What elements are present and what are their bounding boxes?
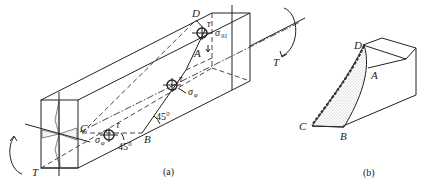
tau-label: τ xyxy=(179,73,183,84)
figure-a: τ σ 91 τ σ φ τ σ φ 45° 45° xyxy=(10,5,305,178)
point-b-label: B xyxy=(340,130,347,142)
point-a-label: A xyxy=(193,47,201,59)
angle-markers: 45° 45° xyxy=(118,111,170,152)
caption-a: (a) xyxy=(163,166,174,178)
angle-label: 45° xyxy=(118,141,132,152)
torque-label: T xyxy=(273,56,280,68)
point-c-label: C xyxy=(299,120,307,132)
prism-edges xyxy=(41,5,305,168)
prism-left-end-face xyxy=(25,92,90,176)
angle-label: 45° xyxy=(156,111,170,122)
point-b-label: B xyxy=(144,133,151,145)
point-c-label: C xyxy=(80,122,88,134)
torque-label: T xyxy=(32,166,39,178)
sigma-subscript: φ xyxy=(194,91,198,98)
caption-b: (b) xyxy=(363,167,375,179)
figure-b: D A B C (b) xyxy=(299,38,416,179)
helix-path xyxy=(82,20,212,133)
tau-label: τ xyxy=(207,18,211,29)
stress-element-bottom: τ σ φ xyxy=(95,119,120,146)
torque-arrow-right: T xyxy=(273,8,296,68)
torsion-diagram: τ σ 91 τ σ φ τ σ φ 45° 45° xyxy=(0,0,428,189)
torque-arrow-left: T xyxy=(10,136,39,178)
tau-label: τ xyxy=(116,119,120,130)
point-a-label: A xyxy=(370,69,378,81)
point-d-label: D xyxy=(353,39,362,51)
sigma-subscript: 91 xyxy=(221,32,228,39)
stress-element-middle: τ σ φ xyxy=(163,73,198,98)
point-d-label: D xyxy=(191,7,200,19)
sigma-subscript: φ xyxy=(101,139,105,146)
